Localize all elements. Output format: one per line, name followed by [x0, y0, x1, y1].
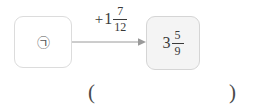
diagram-canvas: ㉠ + 1 7 12 3 5 9: [0, 0, 267, 108]
unknown-label-icon: ㉠: [37, 36, 50, 49]
start-value-box[interactable]: ㉠: [14, 16, 72, 68]
result-numerator: 5: [174, 29, 182, 42]
result-value-box[interactable]: 3 5 9: [146, 16, 200, 70]
operation-denominator: 12: [113, 21, 127, 34]
answer-blank[interactable]: ( ): [88, 80, 236, 104]
operation-fraction: 7 12: [113, 5, 127, 33]
answer-open-paren: (: [88, 82, 95, 103]
operation-numerator: 7: [116, 5, 124, 18]
flow-arrow: [72, 36, 148, 48]
answer-input[interactable]: [95, 92, 229, 93]
result-mixed-number: 3 5 9: [163, 29, 184, 57]
result-whole: 3: [163, 35, 171, 51]
operation-whole: 1: [104, 11, 112, 27]
result-denominator: 9: [174, 45, 182, 58]
operation-mixed-number: + 1 7 12: [95, 5, 127, 33]
result-fraction: 5 9: [172, 29, 184, 57]
operation-label: + 1 7 12: [80, 4, 142, 34]
answer-close-paren: ): [229, 82, 236, 103]
operation-sign: +: [95, 12, 103, 27]
